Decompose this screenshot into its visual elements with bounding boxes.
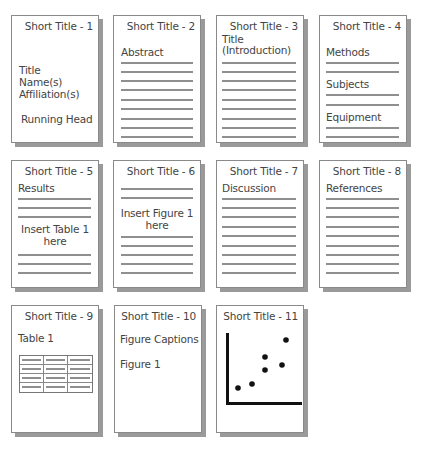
table-cell bbox=[20, 374, 44, 383]
table-cell bbox=[20, 356, 44, 365]
text-line bbox=[222, 127, 296, 129]
insert-table-note: Insert Table 1 bbox=[12, 223, 98, 235]
text-line bbox=[326, 254, 399, 256]
insert-table-note-2: here bbox=[12, 235, 98, 247]
text-line bbox=[121, 80, 193, 82]
text-line bbox=[121, 254, 193, 256]
text-line bbox=[121, 71, 193, 73]
page-header: Short Title - 7 bbox=[230, 165, 298, 177]
text-line bbox=[326, 198, 399, 200]
text-line bbox=[222, 226, 296, 228]
text-line bbox=[121, 136, 193, 138]
table-cell bbox=[68, 374, 92, 383]
table-cell bbox=[20, 365, 44, 374]
text-line bbox=[222, 99, 296, 101]
table-cell bbox=[44, 374, 68, 383]
page-7-discussion: Short Title - 7 Discussion bbox=[216, 160, 304, 288]
text-line bbox=[222, 254, 296, 256]
data-points bbox=[235, 337, 289, 391]
text-line bbox=[326, 226, 399, 228]
introduction-heading: (Introduction) bbox=[222, 44, 291, 56]
title-label: Title bbox=[19, 64, 41, 76]
scatter-plot bbox=[217, 306, 305, 434]
equipment-heading: Equipment bbox=[326, 111, 381, 123]
page-header: Short Title - 3 bbox=[230, 20, 298, 32]
text-line bbox=[222, 118, 296, 120]
page-4-methods: Short Title - 4 Methods Subjects Equipme… bbox=[319, 15, 407, 143]
text-line bbox=[121, 108, 193, 110]
text-line bbox=[121, 188, 193, 190]
text-line bbox=[222, 71, 296, 73]
text-line bbox=[18, 207, 91, 209]
table-cell bbox=[20, 383, 44, 392]
page-2-abstract: Short Title - 2 Abstract bbox=[113, 15, 201, 143]
text-line bbox=[18, 263, 91, 265]
text-line bbox=[326, 62, 399, 64]
page-header: Short Title - 5 bbox=[25, 165, 93, 177]
table-heading: Table 1 bbox=[18, 332, 54, 344]
text-line bbox=[121, 89, 193, 91]
page-header: Short Title - 4 bbox=[333, 20, 401, 32]
affiliations-label: Affiliation(s) bbox=[19, 88, 79, 100]
text-line bbox=[121, 272, 193, 274]
subjects-heading: Subjects bbox=[326, 78, 369, 90]
text-line bbox=[222, 235, 296, 237]
references-heading: References bbox=[326, 182, 382, 194]
figure-captions-heading: Figure Captions bbox=[120, 333, 198, 345]
page-5-results: Short Title - 5 Results Insert Table 1 h… bbox=[11, 160, 99, 288]
text-line bbox=[18, 198, 91, 200]
page-3-introduction: Short Title - 3 Title (Introduction) bbox=[216, 15, 304, 143]
page-header: Short Title - 1 bbox=[25, 20, 93, 32]
text-line bbox=[222, 216, 296, 218]
table-cell bbox=[68, 365, 92, 374]
text-line bbox=[222, 207, 296, 209]
results-heading: Results bbox=[18, 182, 55, 194]
text-line bbox=[326, 263, 399, 265]
text-line bbox=[326, 104, 399, 106]
text-line bbox=[222, 108, 296, 110]
table-cell bbox=[68, 356, 92, 365]
text-line bbox=[121, 127, 193, 129]
text-line bbox=[222, 80, 296, 82]
table-placeholder bbox=[19, 355, 93, 393]
insert-figure-note-2: here bbox=[114, 219, 200, 231]
text-line bbox=[222, 89, 296, 91]
table-cell bbox=[44, 356, 68, 365]
text-line bbox=[326, 235, 399, 237]
page-1-title-page: Short Title - 1 Title Name(s) Affiliatio… bbox=[11, 15, 99, 143]
text-line bbox=[326, 245, 399, 247]
text-line bbox=[18, 216, 91, 218]
names-label: Name(s) bbox=[19, 76, 62, 88]
methods-heading: Methods bbox=[326, 46, 369, 58]
text-line bbox=[326, 94, 399, 96]
text-line bbox=[326, 207, 399, 209]
text-line bbox=[222, 136, 296, 138]
text-line bbox=[121, 99, 193, 101]
text-line bbox=[222, 198, 296, 200]
text-line bbox=[222, 272, 296, 274]
text-line bbox=[121, 62, 193, 64]
text-line bbox=[121, 236, 193, 238]
text-line bbox=[222, 245, 296, 247]
page-11-figure: Short Title - 11 bbox=[216, 305, 304, 433]
page-header: Short Title - 9 bbox=[25, 310, 93, 322]
running-head-label: Running Head bbox=[21, 113, 92, 125]
figure-1-caption: Figure 1 bbox=[120, 358, 160, 370]
text-line bbox=[326, 216, 399, 218]
page-9-table: Short Title - 9 Table 1 bbox=[11, 305, 99, 433]
page-8-references: Short Title - 8 References bbox=[319, 160, 407, 288]
text-line bbox=[326, 71, 399, 73]
page-header: Short Title - 8 bbox=[333, 165, 401, 177]
text-line bbox=[18, 272, 91, 274]
text-line bbox=[222, 263, 296, 265]
y-axis bbox=[226, 333, 229, 405]
abstract-heading: Abstract bbox=[121, 46, 163, 58]
text-line bbox=[121, 118, 193, 120]
x-axis bbox=[226, 402, 302, 405]
text-line bbox=[326, 272, 399, 274]
text-line bbox=[121, 197, 193, 199]
page-header: Short Title - 10 bbox=[121, 310, 196, 322]
text-line bbox=[326, 136, 399, 138]
discussion-heading: Discussion bbox=[222, 182, 276, 194]
text-line bbox=[222, 62, 296, 64]
